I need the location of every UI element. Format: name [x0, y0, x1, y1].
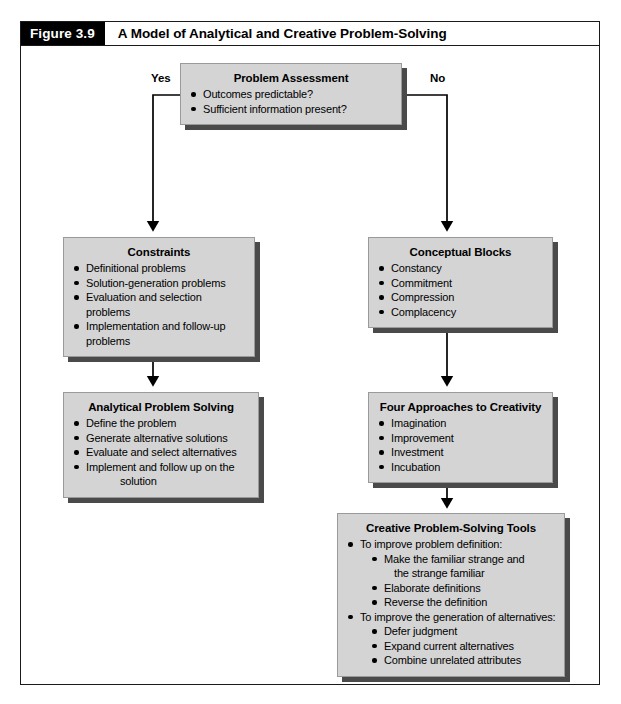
bullet-icon — [372, 629, 377, 634]
node-item-list: Constancy Commitment Compression Complac… — [377, 261, 544, 319]
list-item: Evaluate and select alternatives — [72, 445, 250, 460]
bullet-icon — [379, 295, 384, 300]
node-analytical-problem-solving[interactable]: Analytical Problem Solving Define the pr… — [63, 392, 259, 498]
bullet-icon — [74, 450, 79, 455]
branch-label-yes: Yes — [151, 72, 171, 84]
list-item-label: Compression — [391, 291, 454, 303]
list-item-label: Solution-generation problems — [86, 277, 226, 289]
list-item: Sufficient information present? — [189, 102, 393, 117]
list-item: Investment — [377, 445, 544, 460]
list-item-label: Complacency — [391, 306, 456, 318]
figure-title: A Model of Analytical and Creative Probl… — [105, 22, 447, 45]
node-item-list: Definitional problems Solution-generatio… — [72, 261, 246, 348]
list-item: Generate alternative solutions — [72, 431, 250, 446]
list-item: Definitional problems — [72, 261, 246, 276]
list-item: Solution-generation problems — [72, 276, 246, 291]
bullet-icon — [348, 542, 353, 547]
bullet-icon — [372, 658, 377, 663]
node-title: Analytical Problem Solving — [72, 400, 250, 414]
list-item-label: Improvement — [391, 432, 454, 444]
list-item: Compression — [377, 290, 544, 305]
list-item-label: Reverse the definition — [384, 596, 487, 608]
node-item-list: Define the problem Generate alternative … — [72, 416, 250, 489]
bullet-icon — [74, 436, 79, 441]
bullet-icon — [379, 450, 384, 455]
list-item: Implementation and follow-up problems — [72, 319, 246, 348]
bullet-icon — [74, 465, 79, 470]
node-problem-assessment[interactable]: Problem Assessment Outcomes predictable?… — [180, 63, 402, 125]
bullet-icon — [372, 644, 377, 649]
node-item-list: Outcomes predictable? Sufficient informa… — [189, 87, 393, 116]
bullet-icon — [191, 92, 196, 97]
list-item: Combine unrelated attributes — [346, 653, 556, 668]
figure-header: Figure 3.9 A Model of Analytical and Cre… — [20, 21, 600, 46]
bullet-icon — [348, 615, 353, 620]
list-item-label: Constancy — [391, 262, 442, 274]
bullet-icon — [372, 600, 377, 605]
list-item-label: Outcomes predictable? — [203, 88, 313, 100]
list-item-label: Generate alternative solutions — [86, 432, 228, 444]
list-item: Expand current alternatives — [346, 639, 556, 654]
node-item-list: Imagination Improvement Investment Incub… — [377, 416, 544, 474]
bullet-icon — [379, 310, 384, 315]
list-item-label: Imagination — [391, 417, 446, 429]
list-item-label: Expand current alternatives — [384, 640, 514, 652]
bullet-icon — [379, 421, 384, 426]
list-item-label: Definitional problems — [86, 262, 186, 274]
bullet-icon — [191, 107, 196, 112]
list-item-continuation: solution — [72, 474, 250, 489]
bullet-icon — [372, 586, 377, 591]
node-creative-problem-solving-tools[interactable]: Creative Problem-Solving Tools To improv… — [337, 513, 565, 677]
branch-label-no: No — [430, 72, 445, 84]
bullet-icon — [74, 324, 79, 329]
figure-number-badge: Figure 3.9 — [21, 22, 105, 45]
node-four-approaches-to-creativity[interactable]: Four Approaches to Creativity Imaginatio… — [368, 392, 553, 483]
list-item-label: Elaborate definitions — [384, 582, 481, 594]
list-item: To improve the generation of alternative… — [346, 610, 556, 625]
list-item: Imagination — [377, 416, 544, 431]
node-conceptual-blocks[interactable]: Conceptual Blocks Constancy Commitment C… — [368, 237, 553, 328]
bullet-icon — [379, 465, 384, 470]
list-item: Reverse the definition — [346, 595, 556, 610]
node-title: Creative Problem-Solving Tools — [346, 521, 556, 535]
list-item: Elaborate definitions — [346, 581, 556, 596]
list-item: Improvement — [377, 431, 544, 446]
list-item-label: Implement and follow up on the — [86, 461, 234, 473]
list-item: Complacency — [377, 305, 544, 320]
node-constraints[interactable]: Constraints Definitional problems Soluti… — [63, 237, 255, 357]
list-item-label: Sufficient information present? — [203, 103, 347, 115]
list-item: Incubation — [377, 460, 544, 475]
list-item: Make the familiar strange and — [346, 552, 556, 567]
list-item-label: Implementation and follow-up problems — [86, 320, 226, 347]
list-item-label: Incubation — [391, 461, 440, 473]
node-title: Constraints — [72, 245, 246, 259]
list-item-label: Define the problem — [86, 417, 176, 429]
list-item: Commitment — [377, 276, 544, 291]
list-item-continuation: the strange familiar — [346, 566, 556, 581]
node-title: Problem Assessment — [189, 71, 393, 85]
bullet-icon — [379, 281, 384, 286]
node-title: Four Approaches to Creativity — [377, 400, 544, 414]
list-item: Define the problem — [72, 416, 250, 431]
bullet-icon — [379, 436, 384, 441]
list-item-label: Investment — [391, 446, 443, 458]
list-item-label: Commitment — [391, 277, 452, 289]
list-item-label: Evaluation and selection problems — [86, 291, 202, 318]
list-item-label: To improve problem definition: — [360, 538, 502, 550]
bullet-icon — [74, 281, 79, 286]
list-item-label: solution — [120, 475, 157, 487]
list-item-label: To improve the generation of alternative… — [360, 611, 555, 623]
list-item: Constancy — [377, 261, 544, 276]
bullet-icon — [372, 557, 377, 562]
bullet-icon — [74, 266, 79, 271]
list-item: Defer judgment — [346, 624, 556, 639]
list-item: Evaluation and selection problems — [72, 290, 246, 319]
bullet-icon — [74, 295, 79, 300]
list-item-label: Combine unrelated attributes — [384, 654, 521, 666]
list-item: Outcomes predictable? — [189, 87, 393, 102]
list-item-label: Evaluate and select alternatives — [86, 446, 237, 458]
list-item-label: the strange familiar — [394, 567, 485, 579]
node-item-list: To improve problem definition: Make the … — [346, 537, 556, 668]
node-title: Conceptual Blocks — [377, 245, 544, 259]
bullet-icon — [74, 421, 79, 426]
